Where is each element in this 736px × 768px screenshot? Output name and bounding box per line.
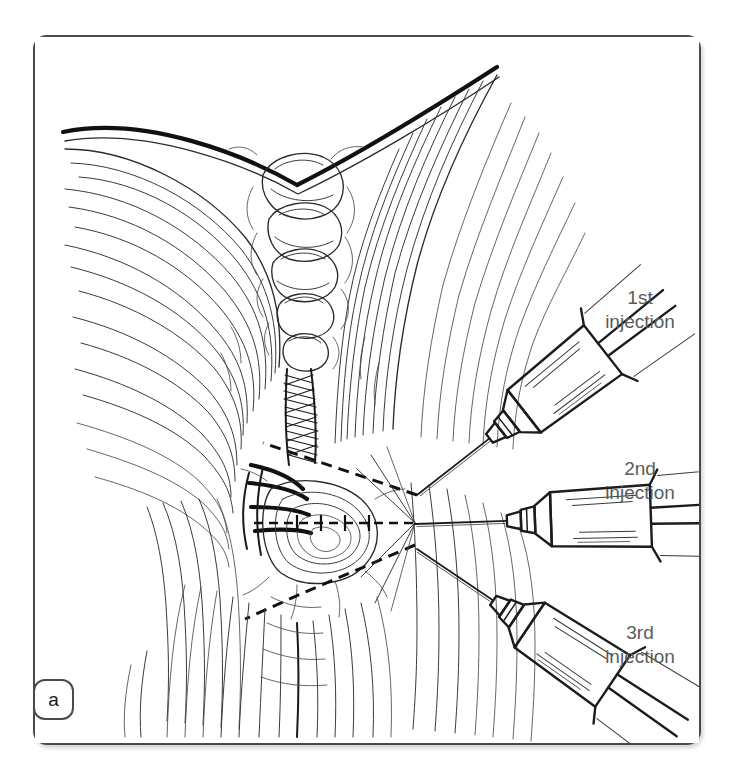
label-third-injection-line2: injection xyxy=(565,645,715,669)
label-second-injection-line2: injection xyxy=(565,481,715,505)
label-first-injection: 1st injection xyxy=(565,286,715,334)
label-second-injection-line1: 2nd xyxy=(565,457,715,481)
label-first-injection-line1: 1st xyxy=(565,286,715,310)
label-third-injection: 3rd injection xyxy=(565,621,715,669)
label-second-injection: 2nd injection xyxy=(565,457,715,505)
label-third-injection-line1: 3rd xyxy=(565,621,715,645)
figure-panel: .ln { fill:none; stroke:#2b2b2b; stroke-… xyxy=(0,0,736,768)
label-first-injection-line2: injection xyxy=(565,310,715,334)
panel-letter-badge: a xyxy=(33,679,74,720)
